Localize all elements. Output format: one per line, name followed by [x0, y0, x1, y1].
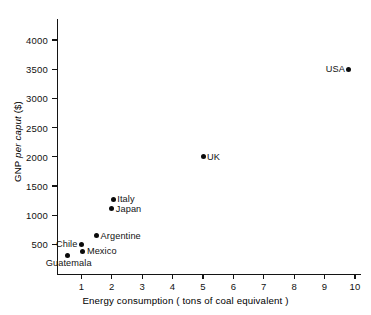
x-tick-6 [233, 274, 234, 279]
data-point-argentine[interactable] [94, 233, 99, 238]
y-tick-label-500: 500 [14, 239, 48, 250]
data-point-label-usa: USA [326, 64, 345, 74]
x-tick-9 [324, 274, 325, 279]
x-tick-7 [263, 274, 264, 279]
data-point-italy[interactable] [111, 197, 116, 202]
data-point-label-argentine: Argentine [101, 231, 141, 241]
x-tick-label-4: 4 [170, 281, 175, 292]
x-tick-label-2: 2 [109, 281, 114, 292]
scatter-chart: 5001000150020002500300035004000 12345678… [0, 0, 371, 315]
x-axis-title: Energy consumption ( tons of coal equiva… [0, 295, 371, 306]
x-axis-line [57, 274, 361, 275]
x-tick-5 [202, 274, 203, 279]
plot-area: 5001000150020002500300035004000 12345678… [0, 0, 371, 315]
y-tick-1000 [52, 215, 57, 216]
y-tick-4000 [52, 39, 57, 40]
data-point-label-chile: Chile [56, 239, 77, 249]
x-tick-4 [172, 274, 173, 279]
y-tick-3500 [52, 69, 57, 70]
data-point-label-mexico: Mexico [87, 246, 117, 256]
x-tick-label-7: 7 [261, 281, 266, 292]
y-axis-title: GNP per caput ($) [12, 52, 23, 232]
data-point-usa[interactable] [346, 67, 351, 72]
y-tick-2000 [52, 156, 57, 157]
y-tick-label-4000: 4000 [14, 35, 48, 46]
x-tick-1 [81, 274, 82, 279]
data-point-label-japan: Japan [116, 204, 142, 214]
x-tick-label-10: 10 [350, 281, 361, 292]
y-tick-3000 [52, 98, 57, 99]
data-point-japan[interactable] [109, 206, 114, 211]
y-tick-1500 [52, 185, 57, 186]
x-tick-2 [111, 274, 112, 279]
x-tick-label-1: 1 [79, 281, 84, 292]
y-tick-2500 [52, 127, 57, 128]
data-point-label-guatemala: Guatemala [46, 258, 92, 268]
x-tick-10 [354, 274, 355, 279]
x-tick-label-9: 9 [322, 281, 327, 292]
data-point-guatemala[interactable] [65, 253, 70, 258]
x-tick-3 [142, 274, 143, 279]
y-axis-line [57, 19, 58, 275]
x-tick-8 [294, 274, 295, 279]
x-tick-label-5: 5 [200, 281, 205, 292]
data-point-label-uk: UK [207, 152, 220, 162]
x-tick-label-6: 6 [231, 281, 236, 292]
x-tick-label-8: 8 [291, 281, 296, 292]
x-tick-label-3: 3 [139, 281, 144, 292]
data-point-mexico[interactable] [80, 249, 85, 254]
data-point-chile[interactable] [79, 242, 84, 247]
data-point-uk[interactable] [201, 154, 206, 159]
